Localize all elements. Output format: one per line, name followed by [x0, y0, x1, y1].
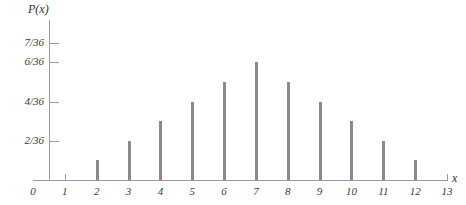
x-tick-mark [65, 174, 66, 181]
y-tick-label-text: 4/36 [24, 95, 44, 107]
y-tick-mark [50, 141, 59, 142]
y-tick-label-text: 7/36 [24, 36, 44, 48]
bar [255, 62, 258, 180]
y-tick-label-text: 6/36 [24, 55, 44, 67]
x-tick-label: 1 [55, 185, 75, 197]
x-tick-label: 2 [87, 185, 107, 197]
x-tick-label: 0 [23, 185, 43, 197]
x-tick-label: 9 [310, 185, 330, 197]
bar [96, 160, 99, 180]
x-axis-title: x [452, 171, 457, 186]
x-tick-label: 4 [150, 185, 170, 197]
y-tick-mark [50, 62, 59, 63]
bar [414, 160, 417, 180]
probability-distribution-chart: P(x) x 2/364/366/367/36 0123456789101112… [0, 0, 466, 205]
x-tick-label: 11 [373, 185, 393, 197]
x-tick-label: 8 [278, 185, 298, 197]
y-tick-label: 4/36 [0, 95, 44, 109]
x-tick-label: 12 [405, 185, 425, 197]
x-tick-label: 13 [437, 185, 457, 197]
bar [191, 102, 194, 180]
x-tick-label: 7 [246, 185, 266, 197]
x-axis-line [33, 180, 448, 181]
x-tick-label: 10 [341, 185, 361, 197]
y-tick-label-text: 2/36 [24, 134, 44, 146]
y-tick-label: 7/36 [0, 36, 44, 50]
bar [159, 121, 162, 180]
bar [128, 141, 131, 180]
y-tick-label: 6/36 [0, 55, 44, 69]
x-tick-label: 6 [214, 185, 234, 197]
x-tick-mark [447, 174, 448, 181]
bar [223, 82, 226, 180]
x-tick-label: 3 [119, 185, 139, 197]
bar [319, 102, 322, 180]
bar [287, 82, 290, 180]
y-axis-title: P(x) [28, 2, 49, 17]
bar [350, 121, 353, 180]
y-axis-line [49, 20, 50, 181]
y-tick-mark [50, 43, 59, 44]
x-tick-label: 5 [182, 185, 202, 197]
y-tick-label: 2/36 [0, 134, 44, 148]
y-tick-mark [50, 102, 59, 103]
bar [382, 141, 385, 180]
